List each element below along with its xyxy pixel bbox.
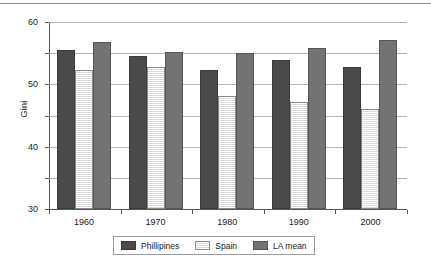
page-separator-rule bbox=[0, 3, 431, 4]
chart-page: Gini 0102030405060 19601970198019902000 … bbox=[0, 0, 431, 266]
plot-area: 0102030405060 bbox=[49, 22, 407, 209]
legend-swatch-icon bbox=[195, 241, 210, 250]
x-tick bbox=[264, 210, 265, 214]
x-tick-label-1980: 1980 bbox=[217, 217, 237, 227]
chart-legend: PhillipinesSpainLA mean bbox=[113, 236, 315, 255]
x-tick bbox=[192, 210, 193, 214]
legend-swatch-icon bbox=[253, 241, 268, 250]
x-tick-label-2000: 2000 bbox=[360, 217, 380, 227]
legend-item-spain: Spain bbox=[195, 241, 237, 251]
legend-item-phillipines: Phillipines bbox=[121, 241, 179, 251]
legend-label: LA mean bbox=[273, 241, 307, 251]
legend-label: Phillipines bbox=[141, 241, 179, 251]
bar-spain-2000 bbox=[361, 109, 379, 209]
y-tick-label: 40 bbox=[28, 142, 38, 152]
x-tick bbox=[49, 210, 50, 214]
y-tick-label: 30 bbox=[28, 204, 38, 214]
bar-phillipines-2000 bbox=[343, 67, 361, 209]
y-tick-30: 30 bbox=[45, 116, 49, 117]
x-tick-label-1960: 1960 bbox=[74, 217, 94, 227]
y-tick-10: 10 bbox=[45, 178, 49, 179]
bar-la-mean-1970 bbox=[165, 52, 183, 209]
bar-phillipines-1960 bbox=[57, 50, 75, 209]
legend-label: Spain bbox=[215, 241, 237, 251]
y-tick-20: 20 bbox=[45, 147, 49, 148]
x-tick-label-1990: 1990 bbox=[289, 217, 309, 227]
bar-spain-1960 bbox=[75, 70, 93, 209]
legend-item-la-mean: LA mean bbox=[253, 241, 307, 251]
y-tick-label: 50 bbox=[28, 79, 38, 89]
bar-la-mean-1990 bbox=[308, 48, 326, 209]
bar-chart-figure: Gini 0102030405060 19601970198019902000 … bbox=[0, 8, 431, 258]
bar-la-mean-1980 bbox=[236, 53, 254, 209]
x-tick-label-1970: 1970 bbox=[146, 217, 166, 227]
y-tick-label: 60 bbox=[28, 17, 38, 27]
bar-la-mean-2000 bbox=[379, 40, 397, 209]
x-tick bbox=[335, 210, 336, 214]
bar-spain-1990 bbox=[290, 102, 308, 209]
y-tick-40: 40 bbox=[45, 84, 49, 85]
y-axis-title: Gini bbox=[19, 89, 29, 129]
bar-phillipines-1980 bbox=[200, 70, 218, 209]
legend-swatch-icon bbox=[121, 241, 136, 250]
x-axis: 19601970198019902000 bbox=[49, 210, 407, 232]
bar-phillipines-1970 bbox=[129, 56, 147, 209]
bar-la-mean-1960 bbox=[93, 42, 111, 209]
bar-phillipines-1990 bbox=[272, 60, 290, 209]
y-tick-50: 50 bbox=[45, 53, 49, 54]
y-tick-60: 60 bbox=[45, 22, 49, 23]
x-tick bbox=[121, 210, 122, 214]
x-tick bbox=[407, 210, 408, 214]
bar-spain-1970 bbox=[147, 67, 165, 209]
bar-spain-1980 bbox=[218, 96, 236, 209]
gridline-60 bbox=[49, 22, 407, 23]
